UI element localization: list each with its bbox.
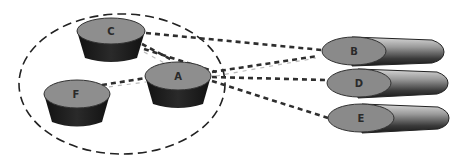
link-a-d bbox=[212, 77, 326, 80]
node-f-label: F bbox=[73, 89, 80, 100]
node-c[interactable]: C bbox=[77, 18, 145, 62]
node-b-label: B bbox=[350, 46, 358, 57]
network-diagram: C A F B D E bbox=[0, 0, 468, 156]
link-f-a bbox=[102, 78, 146, 85]
node-a[interactable]: A bbox=[145, 62, 211, 108]
node-d-label: D bbox=[355, 78, 363, 89]
node-e[interactable]: E bbox=[328, 104, 449, 133]
node-d[interactable]: D bbox=[327, 69, 448, 98]
node-e-label: E bbox=[358, 113, 365, 124]
node-c-label: C bbox=[107, 26, 114, 37]
link-c-b bbox=[146, 33, 322, 50]
node-f[interactable]: F bbox=[44, 80, 110, 127]
node-b[interactable]: B bbox=[322, 37, 444, 66]
node-a-label: A bbox=[174, 71, 182, 82]
link-a-b bbox=[212, 56, 318, 72]
link-a-e bbox=[212, 81, 328, 118]
